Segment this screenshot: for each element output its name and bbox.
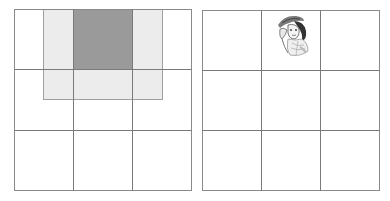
right-grid-vline-2 — [320, 10, 321, 191]
left-grid-lines — [14, 9, 192, 191]
right-grid-vline-1 — [261, 10, 262, 191]
left-grid-border — [14, 9, 192, 191]
right-grid-hline-2 — [202, 130, 380, 131]
portrait-sketch-icon — [270, 11, 318, 59]
left-grid-hline-1 — [14, 69, 192, 70]
right-grid-hline-1 — [202, 70, 380, 71]
left-grid-vline-2 — [132, 9, 133, 191]
left-grid-vline-1 — [73, 9, 74, 191]
left-grid-hline-2 — [14, 130, 192, 131]
